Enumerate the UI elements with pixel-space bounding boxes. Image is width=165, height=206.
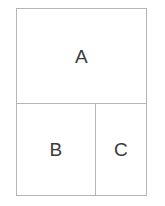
diagram-canvas: A B C — [0, 0, 165, 206]
region-c-label: C — [114, 140, 128, 159]
region-c[interactable]: C — [96, 104, 146, 195]
region-b-label: B — [50, 140, 63, 159]
region-a[interactable]: A — [17, 9, 146, 103]
region-a-label: A — [75, 47, 88, 66]
region-b[interactable]: B — [17, 104, 95, 195]
